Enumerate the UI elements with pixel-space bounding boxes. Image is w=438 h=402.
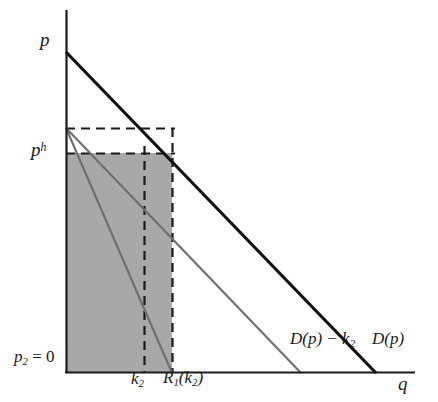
- r1k2-tick-label: R1(k2): [163, 369, 203, 388]
- demand-label: D(p): [372, 330, 404, 347]
- quantity-axis-label: q: [398, 374, 408, 393]
- price-axis-label: p: [40, 30, 50, 49]
- r1-base: R: [163, 368, 173, 387]
- economics-diagram: p ph p2 = 0 k2 R1(k2) D(p) − k2 D(p) q: [0, 0, 438, 402]
- quantity-axis-label-text: q: [398, 373, 408, 394]
- price-hat-label: ph: [31, 140, 46, 159]
- demand-label-text: D(p): [372, 329, 404, 348]
- p2-zero-label: p2 = 0: [14, 348, 55, 367]
- profit-rectangle: [66, 153, 172, 372]
- residual-demand-prefix: D(p) −: [290, 329, 342, 348]
- price-hat-superscript: h: [41, 141, 47, 154]
- residual-demand-label: D(p) − k2: [290, 330, 355, 349]
- price-axis-label-text: p: [40, 29, 50, 50]
- price-hat-base: p: [31, 139, 41, 160]
- p2-base: p: [14, 347, 23, 366]
- k2-tick-label: k2: [131, 370, 144, 389]
- p2-equals-zero: = 0: [28, 347, 55, 366]
- r1-k-base: k: [185, 368, 193, 387]
- residual-demand-k: k: [342, 329, 350, 348]
- r1-paren-close: ): [197, 368, 203, 387]
- k2-base: k: [131, 369, 139, 388]
- residual-demand-subscript: 2: [350, 337, 355, 349]
- k2-subscript: 2: [139, 377, 144, 389]
